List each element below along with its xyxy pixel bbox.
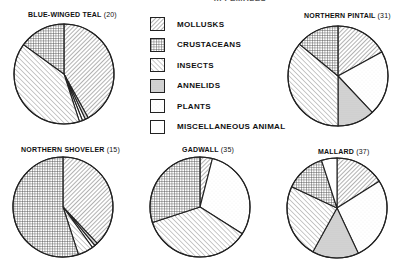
legend-label: MOLLUSKS [177, 20, 224, 29]
pie-title: BLUE-WINGED TEAL [28, 11, 101, 18]
legend-item-crustaceans: CRUSTACEANS [150, 35, 285, 56]
pie-blue-winged-teal [13, 23, 115, 125]
mollusks-swatch-icon [150, 17, 165, 31]
pie-title: MALLARD [318, 148, 354, 155]
pie-label-mallard: MALLARD (37) [318, 148, 369, 155]
pie-title: NORTHERN PINTAIL [304, 12, 375, 19]
pie-sample-size: (20) [104, 11, 117, 18]
legend-label: ANNELIDS [177, 81, 220, 90]
pie-sample-size: (35) [221, 146, 234, 153]
pie-mallard [286, 157, 388, 259]
pie-northern-pintail [287, 25, 389, 127]
legend-item-plants: PLANTS [150, 96, 285, 117]
pie-gadwall [149, 156, 251, 258]
insects-swatch-icon [150, 58, 165, 72]
pie-sample-size: (15) [107, 146, 120, 153]
pie-sample-size: (37) [356, 148, 369, 155]
pie-northern-shoveler [12, 156, 114, 258]
crustaceans-swatch-icon [150, 38, 165, 52]
pie-title: GADWALL [182, 146, 219, 153]
legend-item-annelids: ANNELIDS [150, 76, 285, 97]
legend-item-mollusks: MOLLUSKS [150, 14, 285, 35]
pie-title: NORTHERN SHOVELER [21, 146, 105, 153]
misc-swatch-icon [150, 120, 165, 134]
legend-label: MISCELLANEOUS ANIMAL [177, 122, 285, 131]
legend-item-insects: INSECTS [150, 55, 285, 76]
legend-label: INSECTS [177, 61, 214, 70]
pie-label-northern-pintail: NORTHERN PINTAIL (31) [304, 12, 391, 19]
pie-label-gadwall: GADWALL (35) [182, 146, 234, 153]
figure-title: ... FEMALES [150, 0, 330, 3]
pie-sample-size: (31) [378, 12, 391, 19]
legend-item-misc: MISCELLANEOUS ANIMAL [150, 117, 285, 138]
legend-label: PLANTS [177, 102, 211, 111]
pie-label-northern-shoveler: NORTHERN SHOVELER (15) [21, 146, 120, 153]
pie-label-blue-winged-teal: BLUE-WINGED TEAL (20) [28, 11, 117, 18]
annelids-swatch-icon [150, 79, 165, 93]
legend-label: CRUSTACEANS [177, 40, 241, 49]
plants-swatch-icon [150, 99, 165, 113]
legend: MOLLUSKS CRUSTACEANS INSECTS ANNELIDS PL… [150, 14, 285, 137]
